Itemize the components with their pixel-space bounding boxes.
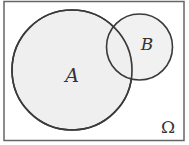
venn-diagram: A B Ω	[0, 0, 189, 145]
set-a-label: A	[63, 64, 79, 86]
set-b-circle	[107, 14, 173, 80]
universe-label: Ω	[161, 117, 175, 137]
set-b-label: B	[140, 34, 154, 54]
